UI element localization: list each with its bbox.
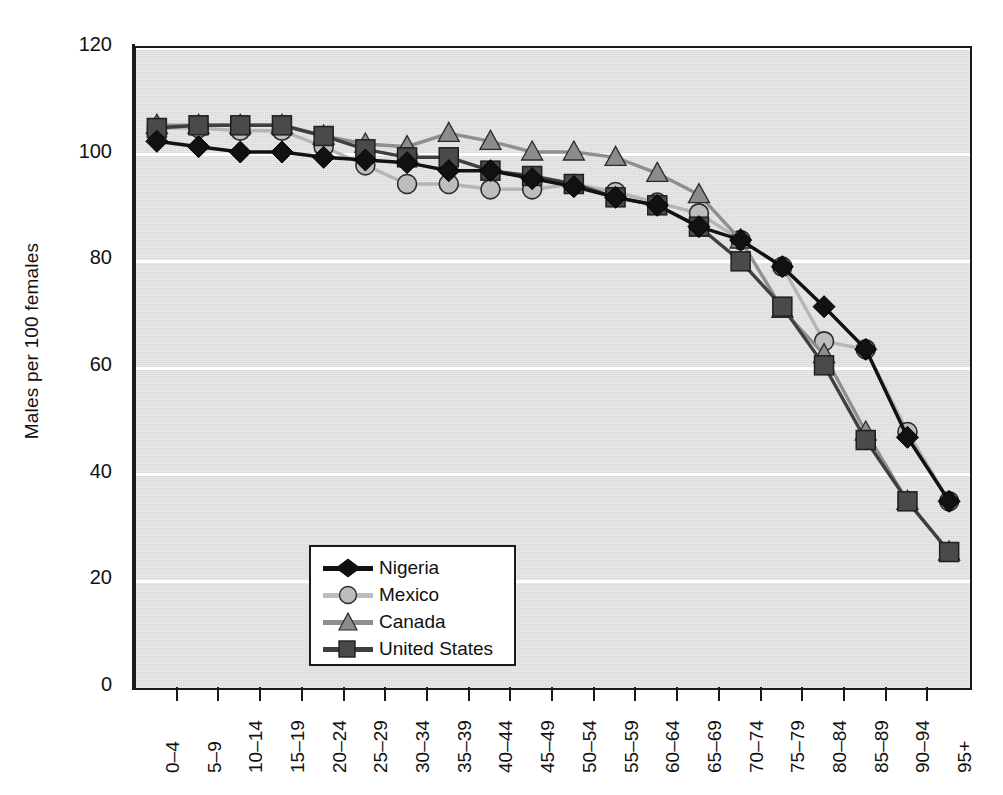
x-axis-tick-label: 15–19 [287, 720, 309, 773]
x-axis-tick [217, 687, 219, 701]
data-point-marker [898, 492, 917, 511]
x-axis-tick-label: 0–4 [162, 741, 184, 773]
data-point-marker [271, 141, 293, 163]
legend-item[interactable]: Canada [321, 608, 514, 635]
legend-item[interactable]: United States [321, 635, 514, 662]
x-axis-tick [468, 687, 470, 701]
data-point-marker [938, 490, 960, 512]
data-point-marker [231, 116, 250, 135]
data-point-marker [272, 116, 291, 135]
series-line [157, 141, 949, 501]
y-axis-tick-label: 100 [0, 140, 112, 163]
x-axis-tick-label: 70–74 [746, 720, 768, 773]
data-point-marker [189, 116, 208, 135]
data-point-marker [229, 141, 251, 163]
y-axis-tick-label: 120 [0, 33, 112, 56]
series-mexico [147, 119, 958, 511]
data-point-marker [773, 297, 792, 316]
data-point-marker [481, 180, 500, 199]
x-axis-tick-label: 5–9 [204, 741, 226, 773]
legend-label: Nigeria [379, 557, 439, 579]
x-axis-tick-label: 95+ [954, 741, 976, 773]
x-axis-tick [343, 687, 345, 701]
x-axis-tick [509, 687, 511, 701]
series-layer [136, 48, 970, 688]
legend-marker-diamond-icon [321, 557, 375, 579]
x-axis-tick-label: 90–94 [912, 720, 934, 773]
plot-area: Nigeria Mexico Canada [134, 46, 972, 690]
x-axis-tick-label: 65–69 [704, 720, 726, 773]
x-axis-tick-label: 25–29 [370, 720, 392, 773]
legend-marker-triangle-icon [321, 611, 375, 633]
x-axis-tick [926, 687, 928, 701]
x-axis-tick-label: 35–39 [454, 720, 476, 773]
y-axis-tick-label: 80 [0, 246, 112, 269]
x-axis-tick [301, 687, 303, 701]
x-axis-tick [426, 687, 428, 701]
data-point-marker [856, 431, 875, 450]
x-axis-tick [176, 687, 178, 701]
x-axis-tick [384, 687, 386, 701]
x-axis-tick-label: 85–89 [871, 720, 893, 773]
data-point-marker [438, 122, 459, 141]
x-axis-tick [760, 687, 762, 701]
legend-marker-circle-icon [321, 584, 375, 606]
x-axis-tick-label: 75–79 [787, 720, 809, 773]
x-axis-tick [885, 687, 887, 701]
x-axis-tick-label: 10–14 [245, 720, 267, 773]
legend-label: Canada [379, 611, 446, 633]
x-axis-tick-label: 30–34 [412, 720, 434, 773]
x-axis-tick-label: 40–44 [495, 720, 517, 773]
legend-item[interactable]: Mexico [321, 581, 514, 608]
data-point-marker [398, 175, 417, 194]
data-point-marker [314, 127, 333, 146]
data-point-marker [731, 252, 750, 271]
x-axis-tick-label: 20–24 [329, 720, 351, 773]
x-axis-tick-label: 60–64 [662, 720, 684, 773]
x-axis-tick [259, 687, 261, 701]
x-axis-tick [718, 687, 720, 701]
legend-item[interactable]: Nigeria [321, 554, 514, 581]
y-axis-tick-label: 20 [0, 566, 112, 589]
x-axis-tick-label: 45–49 [537, 720, 559, 773]
x-axis-tick-label: 50–54 [579, 720, 601, 773]
legend: Nigeria Mexico Canada [309, 545, 516, 666]
x-axis-tick-label: 55–59 [621, 720, 643, 773]
chart-root: Males per 100 females 020406080100120 Ni… [0, 0, 1003, 795]
legend-marker-square-icon [321, 638, 375, 660]
y-axis-tick-label: 0 [0, 673, 112, 696]
y-axis-tick-label: 40 [0, 460, 112, 483]
legend-label: United States [379, 638, 493, 660]
x-axis-tick [551, 687, 553, 701]
data-point-marker [688, 184, 709, 203]
x-axis-tick [593, 687, 595, 701]
data-point-marker [815, 356, 834, 375]
x-axis-tick [634, 687, 636, 701]
x-axis-tick [801, 687, 803, 701]
x-axis-tick [676, 687, 678, 701]
x-axis-tick-label: 80–84 [829, 720, 851, 773]
x-axis-tick [843, 687, 845, 701]
legend-label: Mexico [379, 584, 439, 606]
data-point-marker [188, 136, 210, 158]
data-point-marker [940, 543, 959, 562]
y-axis-tick-label: 60 [0, 353, 112, 376]
